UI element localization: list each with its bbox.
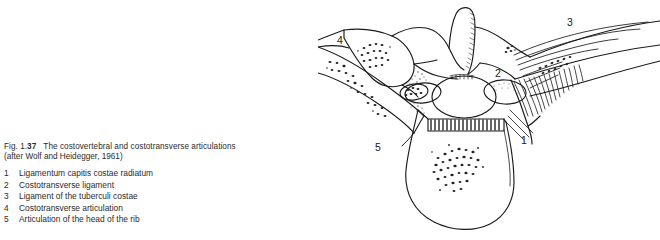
vertebral-arch-right xyxy=(475,27,530,79)
caption-block: Fig. 1.37The costovertebral and costotra… xyxy=(4,142,304,163)
figure-number-value: 37 xyxy=(27,142,36,151)
spinous-process xyxy=(449,8,480,74)
left-rib-upper-trabeculae xyxy=(357,43,391,68)
figure-number-prefix: Fig. 1. xyxy=(4,142,27,151)
legend-label: Ligament of the tuberculi costae xyxy=(19,191,294,203)
callout-label-5: 5 xyxy=(375,141,381,153)
callout-label-4: 4 xyxy=(337,34,343,46)
left-pedicle-shading xyxy=(409,71,426,113)
anatomical-illustration: 4 3 2 1 5 xyxy=(318,0,660,240)
legend-label: Articulation of the head of the rib xyxy=(19,214,294,226)
legend-label: Costotransverse ligament xyxy=(19,180,294,192)
spinous-process-shading xyxy=(466,13,475,68)
callout-label-2: 2 xyxy=(495,67,501,79)
legend-number: 4 xyxy=(4,203,19,215)
figure-caption: Fig. 1.37The costovertebral and costotra… xyxy=(4,142,304,152)
costotransverse-ligament-origin-tuft xyxy=(505,45,516,53)
callout-label-3: 3 xyxy=(567,16,573,28)
list-item: 2 Costotransverse ligament xyxy=(4,180,294,192)
legend-number: 1 xyxy=(4,168,19,180)
legend-list: 1 Ligamentum capitis costae radiatum 2 C… xyxy=(4,168,294,226)
callout-label-1: 1 xyxy=(521,134,527,146)
figure-source: (after Wolf and Heidegger, 1961) xyxy=(4,152,304,162)
list-item: 4 Costotransverse articulation xyxy=(4,203,294,215)
legend-label: Ligamentum capitis costae radiatum xyxy=(19,168,294,180)
label-5-leader xyxy=(402,133,414,146)
legend-number: 5 xyxy=(4,214,19,226)
list-item: 1 Ligamentum capitis costae radiatum xyxy=(4,168,294,180)
legend-number: 2 xyxy=(4,180,19,192)
legend-label: Costotransverse articulation xyxy=(19,203,294,215)
left-rib-cut-trabeculae xyxy=(326,61,386,117)
figure-number: Fig. 1.37 xyxy=(4,142,36,151)
figure-title: The costovertebral and costotransverse a… xyxy=(43,142,235,151)
legend-number: 3 xyxy=(4,191,19,203)
vertebral-arch-left xyxy=(392,27,464,79)
list-item: 3 Ligament of the tuberculi costae xyxy=(4,191,294,203)
figure-page: 4 3 2 1 5 Fig. 1.37The costovertebral an… xyxy=(0,0,660,240)
left-transverse-process xyxy=(402,60,437,97)
list-item: 5 Articulation of the head of the rib xyxy=(4,214,294,226)
vertebral-body-trabeculae xyxy=(431,144,484,192)
left-rib-upper-segment xyxy=(344,29,414,87)
